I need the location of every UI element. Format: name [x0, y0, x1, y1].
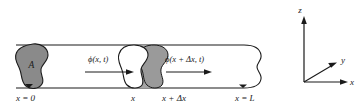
control-volume-slab	[118, 45, 168, 88]
area-label: A	[28, 60, 35, 70]
axis-x-label: x	[349, 77, 354, 87]
heat-flux-tube-diagram: A ϕ(x, t) ϕ(x + Δx, t) x = 0	[0, 0, 362, 112]
axis-y-line	[304, 66, 331, 82]
cross-section-blob-left: A	[15, 44, 48, 89]
flux-right-arrow-head	[204, 69, 212, 75]
flux-left-label: ϕ(x, t)	[88, 54, 109, 64]
position-x-label: x	[130, 93, 135, 103]
coordinate-axes: z x y	[297, 5, 354, 87]
tube-right-end-cap	[244, 45, 261, 88]
position-x-plus-dx-label: x + Δx	[161, 93, 186, 103]
axis-z-arrow-head	[301, 16, 307, 24]
position-end-label: x = L	[234, 93, 255, 103]
flux-right-group: ϕ(x + Δx, t)	[165, 54, 212, 75]
axis-y-label: y	[340, 55, 345, 65]
axis-z-label: z	[297, 5, 302, 15]
diagram-canvas: A ϕ(x, t) ϕ(x + Δx, t) x = 0	[0, 0, 362, 112]
flux-right-label: ϕ(x + Δx, t)	[165, 54, 204, 64]
axis-x-arrow-head	[340, 79, 348, 85]
position-origin-label: x = 0	[15, 93, 36, 103]
